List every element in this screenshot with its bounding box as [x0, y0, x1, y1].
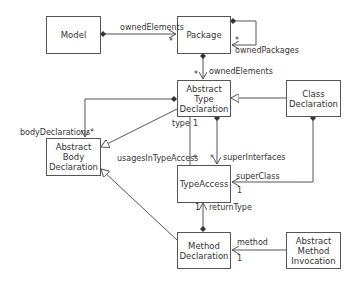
class-atd-line1: Abstract: [186, 84, 222, 94]
label-body-declarations: bodyDeclarations: [20, 128, 90, 137]
label-method-mult: 1: [237, 254, 242, 263]
edge-methoddecl-abd: [101, 169, 177, 240]
edge-atd-abd-generalization: [101, 109, 177, 147]
class-type-access-name: TypeAccess: [180, 179, 229, 189]
class-type-access[interactable]: TypeAccess: [177, 165, 231, 203]
class-model-name: Model: [61, 30, 87, 40]
class-abstract-type-declaration[interactable]: Abstract Type Declaration: [177, 80, 231, 117]
class-model[interactable]: Model: [46, 16, 101, 54]
label-method: method: [237, 238, 268, 247]
label-package-owned-elements: ownedElements: [209, 67, 273, 76]
class-ami-line2: Method: [298, 246, 330, 256]
label-super-interfaces-mult: *: [210, 154, 214, 163]
label-owned-packages-mult: *: [235, 36, 239, 45]
class-ami-line1: Abstract: [296, 236, 332, 246]
class-package-name: Package: [186, 30, 221, 40]
class-atd-line2: Type: [194, 94, 214, 104]
class-class-declaration[interactable]: Class Declaration: [286, 80, 341, 117]
edge-atd-abd-composition: [85, 99, 175, 137]
class-method-declaration[interactable]: Method Declaration: [177, 232, 231, 269]
label-package-owned-elements-mult: *: [194, 70, 198, 79]
label-return-type: returnType: [209, 203, 252, 212]
label-return-type-mult: 1: [195, 203, 200, 212]
label-type-mult: 1: [193, 119, 198, 128]
label-owned-packages: ownedPackages: [235, 46, 299, 55]
class-package[interactable]: Package: [177, 16, 231, 54]
label-usages-in-type-access: usagesInTypeAccess: [117, 154, 199, 163]
class-md-line1: Method: [188, 241, 220, 251]
class-abd-line1: Abstract: [56, 142, 92, 152]
class-atd-line3: Declaration: [179, 104, 228, 114]
class-ami-line3: Invocation: [291, 256, 335, 266]
label-type: type: [172, 119, 190, 128]
label-super-class-mult: 1: [237, 186, 242, 195]
class-cd-line1: Class: [302, 89, 324, 99]
label-usages-mult: *: [193, 154, 197, 163]
label-model-owned-elements-mult: *: [169, 37, 173, 46]
label-body-declarations-mult: *: [90, 128, 94, 137]
class-abstract-body-declaration[interactable]: Abstract Body Declaration: [46, 138, 101, 176]
class-md-line2: Declaration: [179, 251, 228, 261]
label-model-owned-elements: ownedElements: [120, 23, 184, 32]
label-super-class: superClass: [236, 172, 280, 181]
class-cd-line2: Declaration: [289, 99, 338, 109]
class-abd-line2: Body: [63, 152, 84, 162]
label-super-interfaces: superInterfaces: [223, 153, 286, 162]
class-abd-line3: Declaration: [49, 162, 98, 172]
class-abstract-method-invocation[interactable]: Abstract Method Invocation: [286, 232, 341, 269]
